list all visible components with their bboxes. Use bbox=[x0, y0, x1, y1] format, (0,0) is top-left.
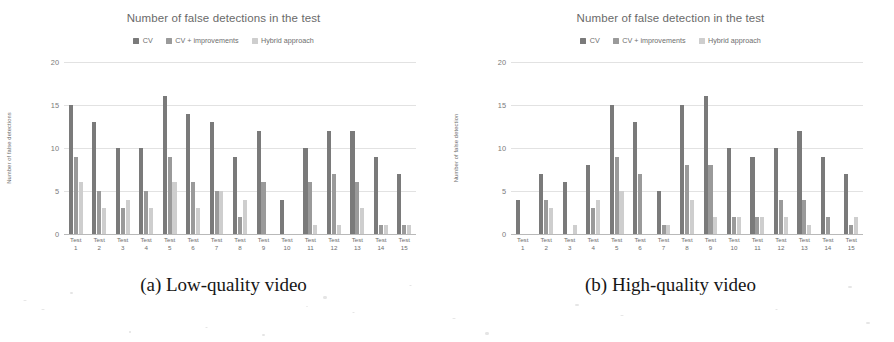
x-tick-line1: Test bbox=[634, 236, 645, 243]
legend-item-cv: CV bbox=[133, 36, 153, 45]
scan-speck bbox=[848, 286, 852, 288]
bar bbox=[615, 157, 619, 234]
legend-label-cv: CV bbox=[143, 36, 153, 45]
bar bbox=[797, 131, 801, 234]
bar bbox=[172, 182, 176, 234]
bar bbox=[633, 122, 637, 234]
x-tick-line1: Test bbox=[164, 236, 175, 243]
bar-group bbox=[511, 62, 534, 234]
bar bbox=[591, 208, 595, 234]
figure-container: Number of false detections in the test C… bbox=[0, 0, 894, 342]
bar-group bbox=[793, 62, 816, 234]
bar bbox=[215, 191, 219, 234]
bar bbox=[196, 208, 200, 234]
x-tick-label: Test4 bbox=[134, 236, 157, 253]
bar bbox=[854, 217, 858, 234]
x-tick-label: Test6 bbox=[628, 236, 651, 253]
bar bbox=[332, 174, 336, 234]
bar-groups-b bbox=[511, 62, 863, 234]
bar-group bbox=[699, 62, 722, 234]
x-tick-line1: Test bbox=[140, 236, 151, 243]
bar-group bbox=[181, 62, 204, 234]
bar-group bbox=[134, 62, 157, 234]
scan-speck bbox=[323, 296, 327, 299]
x-tick-label: Test4 bbox=[581, 236, 604, 253]
bar bbox=[619, 191, 623, 234]
bar-group bbox=[816, 62, 839, 234]
bar bbox=[680, 105, 684, 234]
x-tick-label: Test8 bbox=[228, 236, 251, 253]
x-tick-label: Test10 bbox=[275, 236, 298, 253]
x-tick-label: Test13 bbox=[346, 236, 369, 253]
legend-a: CV CV + improvements Hybrid approach bbox=[0, 36, 447, 45]
bar-group bbox=[299, 62, 322, 234]
x-tick-line2: 8 bbox=[228, 244, 251, 252]
bar-group bbox=[840, 62, 863, 234]
x-tick-line2: 7 bbox=[205, 244, 228, 252]
bar bbox=[97, 191, 101, 234]
bar bbox=[539, 174, 543, 234]
y-tick-label-0: 0 bbox=[55, 230, 59, 239]
x-tick-label: Test2 bbox=[87, 236, 110, 253]
x-tick-line2: 13 bbox=[346, 244, 369, 252]
chart-panels: Number of false detections in the test C… bbox=[0, 0, 894, 268]
bar-group bbox=[558, 62, 581, 234]
legend-item-cv: CV bbox=[580, 36, 600, 45]
bar-group bbox=[205, 62, 228, 234]
scan-speck bbox=[262, 334, 265, 336]
bar bbox=[74, 157, 78, 234]
legend-swatch-cv-improvements bbox=[166, 38, 172, 44]
plot-area-b: 05101520 bbox=[511, 62, 863, 234]
bar bbox=[69, 105, 73, 234]
x-tick-line1: Test bbox=[258, 236, 269, 243]
legend-label-hybrid: Hybrid approach bbox=[708, 36, 761, 45]
bar-group bbox=[87, 62, 110, 234]
x-tick-label: Test3 bbox=[558, 236, 581, 253]
bar-group bbox=[393, 62, 416, 234]
bar bbox=[360, 208, 364, 234]
x-tick-line1: Test bbox=[305, 236, 316, 243]
x-tick-line2: 6 bbox=[181, 244, 204, 252]
y-tick-label-20: 20 bbox=[498, 58, 506, 67]
x-tick-label: Test14 bbox=[369, 236, 392, 253]
y-tick-label-20: 20 bbox=[51, 58, 59, 67]
bar bbox=[303, 148, 307, 234]
x-tick-label: Test2 bbox=[534, 236, 557, 253]
x-tick-label: Test12 bbox=[769, 236, 792, 253]
legend-item-cv-improvements: CV + improvements bbox=[166, 36, 239, 45]
legend-label-cv-improvements: CV + improvements bbox=[622, 36, 685, 45]
x-tick-line1: Test bbox=[611, 236, 622, 243]
bar-group bbox=[534, 62, 557, 234]
bar bbox=[737, 217, 741, 234]
y-tick-label-0: 0 bbox=[502, 230, 506, 239]
y-tick-label-10: 10 bbox=[51, 144, 59, 153]
bar-group bbox=[628, 62, 651, 234]
bar bbox=[243, 200, 247, 234]
bar bbox=[685, 165, 689, 234]
legend-swatch-hybrid bbox=[252, 38, 258, 44]
x-tick-label: Test1 bbox=[64, 236, 87, 253]
y-tick-label-10: 10 bbox=[498, 144, 506, 153]
bar bbox=[350, 131, 354, 234]
legend-swatch-cv bbox=[133, 38, 139, 44]
x-tick-line1: Test bbox=[705, 236, 716, 243]
x-tick-line1: Test bbox=[846, 236, 857, 243]
bar-group bbox=[581, 62, 604, 234]
panel-low-quality: Number of false detections in the test C… bbox=[0, 0, 447, 268]
x-tick-line1: Test bbox=[94, 236, 105, 243]
bar bbox=[784, 217, 788, 234]
bar bbox=[261, 182, 265, 234]
x-tick-line1: Test bbox=[117, 236, 128, 243]
y-axis-label-b: Number of false detection bbox=[453, 62, 465, 234]
x-tick-line2: 8 bbox=[675, 244, 698, 252]
legend-swatch-cv-improvements bbox=[613, 38, 619, 44]
scan-speck bbox=[452, 318, 456, 319]
legend-label-cv-improvements: CV + improvements bbox=[175, 36, 238, 45]
scan-speck bbox=[575, 304, 579, 306]
chart-title-a: Number of false detections in the test bbox=[0, 12, 447, 24]
x-tick-line1: Test bbox=[328, 236, 339, 243]
bar bbox=[313, 225, 317, 234]
bar bbox=[163, 96, 167, 234]
bar bbox=[308, 182, 312, 234]
bar bbox=[662, 225, 666, 234]
